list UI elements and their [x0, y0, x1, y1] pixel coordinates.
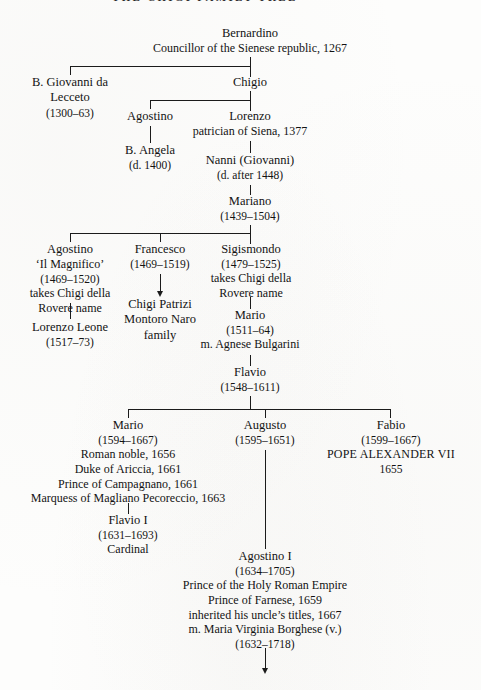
node-agostino-i: Agostino I (1634–1705) Prince of the Hol… [145, 549, 385, 651]
connector-gen2-bar [150, 100, 251, 101]
agostino-i-title1: Prince of the Holy Roman Empire [145, 578, 385, 593]
node-lorenzo: Lorenzo patrician of Siena, 1377 [170, 109, 330, 139]
bernardino-detail: Councillor of the Sienese republic, 1267 [150, 41, 350, 56]
lorenzo-detail: patrician of Siena, 1377 [170, 124, 330, 139]
agostino-i-title2: Prince of Farnese, 1659 [145, 593, 385, 608]
flavio-i-name: Flavio I [73, 513, 183, 528]
mario1511-marriage: m. Agnese Bulgarini [170, 337, 330, 352]
connector-to-mario1594 [128, 409, 129, 418]
fabio-name: Fabio [305, 418, 477, 433]
connector-lorenzo-to-nanni [250, 141, 251, 153]
connector-to-fabio [390, 409, 391, 418]
agostino-magnifico-dates: (1469–1520) [8, 272, 132, 286]
nanni-dates: (d. after 1448) [180, 168, 320, 182]
sigismondo-dates: (1479–1525) [195, 257, 307, 271]
sigismondo-name: Sigismondo [195, 242, 307, 257]
agostino-i-title3: inherited his uncle’s titles, 1667 [145, 608, 385, 623]
connector-to-giovanni [70, 66, 71, 75]
connector-to-francesco [160, 233, 161, 242]
node-lorenzo-leone: Lorenzo Leone (1517–73) [8, 320, 132, 349]
connector-francesco-to-chigi-patrizi [160, 274, 161, 292]
nanni-name: Nanni (Giovanni) [180, 153, 320, 168]
lorenzo-name: Lorenzo [170, 109, 330, 124]
fabio-papal-title: POPE ALEXANDER VII [305, 447, 477, 462]
node-chigio: Chigio [200, 75, 300, 90]
fabio-papal-year: 1655 [305, 462, 477, 476]
bernardino-name: Bernardino [150, 26, 350, 41]
node-nanni: Nanni (Giovanni) (d. after 1448) [180, 153, 320, 182]
mario1594-title3: Prince of Campagnano, 1661 [0, 477, 256, 492]
flavio-name: Flavio [195, 365, 305, 380]
fabio-dates: (1599–1667) [305, 433, 477, 447]
mario1594-title4: Marquess of Magliano Pecoreccio, 1663 [0, 491, 256, 506]
connector-continuation-stem [265, 648, 266, 670]
mariano-dates: (1439–1504) [190, 209, 310, 223]
connector-to-agostino-magnifico [70, 233, 71, 242]
connector-gen-flavio-bar [128, 409, 391, 410]
connector-flavio-stem [250, 396, 251, 409]
connector-chigio-stem [250, 91, 251, 100]
node-sigismondo: Sigismondo (1479–1525) takes Chigi della… [195, 242, 307, 301]
connector-gen1-bar [70, 66, 251, 67]
node-augusto: Augusto (1595–1651) [210, 418, 320, 447]
clipped-header-text: THE CHIGI FAMILY TREE [112, 0, 298, 3]
giovanni-name-line2: Lecceto [0, 90, 140, 105]
mario1511-name: Mario [170, 308, 330, 323]
lorenzo-leone-dates: (1517–73) [8, 335, 132, 349]
connector-agostino1-to-angela [150, 126, 151, 143]
node-mariano: Mariano (1439–1504) [190, 194, 310, 223]
giovanni-name-line1: B. Giovanni da [0, 75, 140, 90]
sigismondo-note1: takes Chigi della [195, 271, 307, 286]
augusto-name: Augusto [210, 418, 320, 433]
connector-bernardino-stem [250, 57, 251, 66]
flavio-i-dates: (1631–1693) [73, 528, 183, 542]
agostino-i-name: Agostino I [145, 549, 385, 564]
agostino-i-wife-dates: (1632–1718) [145, 637, 385, 651]
chigio-name: Chigio [200, 75, 300, 90]
arrow-down-icon-continuation [262, 668, 268, 674]
augusto-dates: (1595–1651) [210, 433, 320, 447]
mariano-name: Mariano [190, 194, 310, 209]
family-tree-diagram: THE CHIGI FAMILY TREE Bernardino Council… [0, 0, 481, 690]
node-bernardino: Bernardino Councillor of the Sienese rep… [150, 26, 350, 56]
flavio-dates: (1548–1611) [195, 380, 305, 394]
node-fabio: Fabio (1599–1667) POPE ALEXANDER VII 165… [305, 418, 477, 476]
node-flavio: Flavio (1548–1611) [195, 365, 305, 394]
mario1594-title1: Roman noble, 1656 [0, 447, 256, 462]
node-mario-1511: Mario (1511–64) m. Agnese Bulgarini [170, 308, 330, 352]
agostino-i-dates: (1634–1705) [145, 564, 385, 578]
connector-to-augusto [265, 409, 266, 418]
connector-to-agostino1 [150, 100, 151, 109]
mario1511-dates: (1511–64) [170, 323, 330, 337]
lorenzo-leone-name: Lorenzo Leone [8, 320, 132, 335]
connector-mariano-stem [250, 225, 251, 233]
clipped-page-header: THE CHIGI FAMILY TREE [0, 0, 481, 9]
connector-augusto-to-agostino-i [265, 450, 266, 549]
mario1594-title2: Duke of Ariccia, 1661 [0, 462, 256, 477]
agostino-i-marriage: m. Maria Virginia Borghese (v.) [145, 622, 385, 637]
